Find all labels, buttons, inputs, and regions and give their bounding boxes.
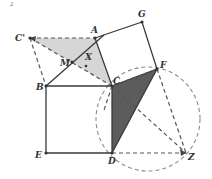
label-c: C [113, 76, 121, 86]
point-x [85, 65, 88, 68]
label-z: Z [187, 152, 195, 162]
label-a: A [90, 25, 98, 35]
label-d: D [107, 156, 116, 166]
square-bcde [46, 86, 112, 153]
label-x: X [84, 52, 93, 62]
geometry-diagram: 2 C' A G F C B E D Z M X [0, 0, 212, 179]
point-d [110, 151, 113, 154]
label-m: M [59, 58, 71, 68]
label-e: E [34, 150, 42, 160]
label-cprime: C' [15, 33, 25, 43]
point-e [44, 151, 47, 154]
point-m [70, 60, 73, 63]
label-b: B [35, 82, 44, 92]
point-b [44, 84, 47, 87]
point-f [155, 67, 158, 70]
label-f: F [159, 60, 167, 70]
point-cprime [28, 36, 31, 39]
point-a [93, 36, 96, 39]
point-g [140, 20, 143, 23]
dashed-c-down [104, 86, 112, 110]
label-g: G [138, 9, 146, 19]
corner-mark: 2 [9, 1, 14, 7]
